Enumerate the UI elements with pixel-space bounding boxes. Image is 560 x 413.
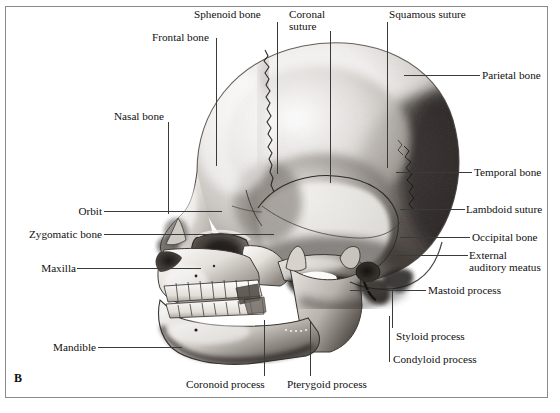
label-temporal-bone: Temporal bone	[474, 166, 541, 178]
leader-maxilla	[77, 268, 201, 269]
leader-external-auditory-meatus	[396, 255, 468, 256]
label-coronal-suture-line2: suture	[289, 20, 316, 32]
label-coronoid-process: Coronoid process	[186, 378, 265, 390]
leader-occipital-bone	[400, 237, 470, 238]
leader-mandible	[98, 347, 182, 348]
label-lambdoid-suture: Lambdoid suture	[466, 203, 542, 215]
leader-coronal-suture	[330, 31, 331, 183]
label-sphenoid-bone: Sphenoid bone	[194, 8, 261, 20]
label-mandible: Mandible	[40, 341, 96, 353]
label-maxilla: Maxilla	[26, 262, 76, 274]
label-external-auditory-meatus-line2: auditory meatus	[469, 261, 541, 273]
leader-styloid-process	[392, 288, 393, 328]
leader-zygomatic-bone	[104, 234, 274, 235]
panel-letter-b: B	[14, 371, 23, 386]
label-zygomatic-bone: Zygomatic bone	[14, 228, 102, 240]
leader-coronoid-process	[264, 320, 265, 376]
label-parietal-bone: Parietal bone	[482, 69, 541, 81]
leader-condyloid-process	[389, 316, 390, 362]
leader-nasal-bone	[168, 122, 169, 214]
leader-sphenoid-bone	[277, 22, 278, 174]
leader-temporal-bone	[396, 172, 472, 173]
leader-mastoid-process	[350, 290, 426, 291]
leader-pterygoid-process	[310, 322, 311, 376]
label-styloid-process: Styloid process	[396, 330, 465, 342]
label-external-auditory-meatus-line1: External	[469, 249, 507, 261]
label-pterygoid-process: Pterygoid process	[287, 378, 367, 390]
label-orbit: Orbit	[40, 205, 102, 217]
leader-parietal-bone	[404, 75, 480, 76]
label-coronal-suture-line1: Coronal	[289, 8, 325, 20]
leader-lambdoid-suture	[400, 209, 465, 210]
label-frontal-bone: Frontal bone	[152, 31, 209, 43]
label-condyloid-process: Condyloid process	[393, 353, 477, 365]
leader-frontal-bone	[216, 38, 217, 166]
label-squamous-suture: Squamous suture	[389, 8, 466, 20]
label-nasal-bone: Nasal bone	[114, 110, 164, 122]
leader-orbit	[104, 211, 222, 212]
anatomy-figure-panel: Sphenoid bone Coronal suture Squamous su…	[0, 0, 560, 413]
label-occipital-bone: Occipital bone	[472, 231, 538, 243]
label-mastoid-process: Mastoid process	[428, 284, 501, 296]
leader-squamous-suture	[387, 22, 388, 168]
